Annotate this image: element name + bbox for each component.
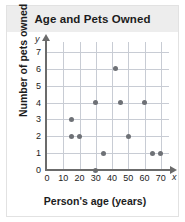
gridline-horizontal — [47, 119, 169, 120]
data-point — [101, 151, 106, 156]
y-tick-label: 1 — [31, 148, 41, 158]
gridline-vertical — [112, 42, 113, 170]
data-point — [118, 100, 123, 105]
y-tick-label: 2 — [31, 131, 41, 141]
x-axis-label: Person's age (years) — [20, 195, 170, 207]
y-tick-label: 3 — [31, 114, 41, 124]
data-point — [77, 134, 82, 139]
data-point — [69, 134, 74, 139]
data-point — [158, 151, 163, 156]
gridline-vertical — [145, 42, 146, 170]
gridline-horizontal — [47, 86, 169, 87]
y-axis-variable: y — [35, 34, 40, 44]
gridline-horizontal — [47, 103, 169, 104]
data-point — [126, 134, 131, 139]
y-tick-label: 6 — [31, 64, 41, 74]
y-axis-arrow-icon — [42, 34, 50, 41]
x-axis-line — [45, 169, 172, 171]
data-point — [150, 151, 155, 156]
gridline-horizontal — [47, 52, 169, 53]
data-point — [113, 66, 118, 71]
y-tick-label: 0 — [31, 165, 41, 175]
y-axis-line — [45, 41, 47, 171]
y-axis-label: Number of pets owned — [17, 7, 29, 117]
x-tick-label: 70 — [152, 173, 170, 183]
gridline-horizontal — [47, 69, 169, 70]
gridline-vertical — [80, 42, 81, 170]
gridline-vertical — [63, 42, 64, 170]
y-tick-label: 7 — [31, 47, 41, 57]
data-point — [69, 117, 74, 122]
gridline-vertical — [96, 42, 97, 170]
chart-title: Age and Pets Owned — [7, 6, 178, 32]
gridline-vertical — [128, 42, 129, 170]
gridline-horizontal — [47, 136, 169, 137]
y-tick-label: 4 — [31, 98, 41, 108]
scatter-plot-figure: Age and Pets Owned Number of pets owned … — [0, 0, 185, 222]
data-point — [93, 100, 98, 105]
x-axis-variable: x — [172, 172, 177, 182]
plot-area — [47, 42, 169, 170]
data-point — [142, 100, 147, 105]
y-tick-label: 5 — [31, 81, 41, 91]
